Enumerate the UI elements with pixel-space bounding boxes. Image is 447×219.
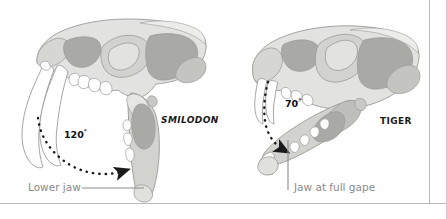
tiger-jaw-condyle — [355, 98, 366, 110]
tiger-species-label: TIGER — [380, 117, 412, 126]
smilodon-angle-value: 120 — [64, 129, 84, 140]
tiger-jaw-symphysis — [258, 157, 278, 175]
smilodon-species-label: SMILODON — [161, 116, 219, 125]
smilodon-angle-label: 120° — [64, 130, 87, 140]
tiger-angle-label: 70° — [285, 99, 301, 109]
tiger-skull-illustration — [253, 26, 420, 190]
tiger-gape-caption: Jaw at full gape — [294, 182, 375, 193]
smilodon-lower-jaw-caption: Lower jaw — [28, 182, 81, 193]
smilodon-jaw-condyle — [148, 96, 158, 107]
tiger-upper-canine-inner — [266, 81, 278, 124]
smilodon-skull-illustration — [22, 19, 206, 202]
tiger-angle-value: 70 — [285, 98, 298, 109]
jaw-gape-comparison-figure: SMILODON 120° Lower jaw TIGER 70° Jaw at… — [0, 0, 447, 219]
smilodon-degree-symbol: ° — [84, 128, 87, 136]
tiger-degree-symbol: ° — [298, 97, 301, 105]
